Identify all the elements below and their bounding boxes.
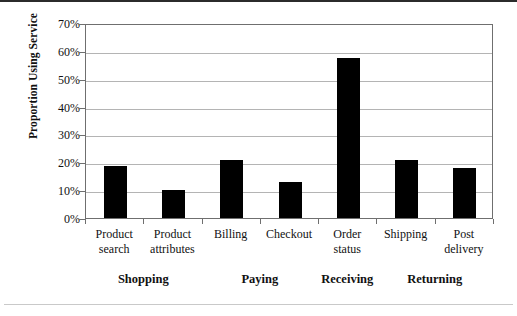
bar [220, 160, 243, 219]
y-axis-tick-label: 30% [36, 129, 80, 141]
y-axis-ticks: 70%60%50%40%30%20%10%0% [30, 24, 80, 219]
x-axis-category-label-line: delivery [435, 242, 493, 257]
x-axis-tick-mark [493, 219, 494, 224]
x-axis-category-label: Checkout [260, 227, 318, 242]
x-axis-tick-mark [435, 219, 436, 224]
gridline [86, 53, 492, 54]
gridline [86, 109, 492, 110]
y-axis-tick-label: 40% [36, 102, 80, 114]
x-axis-category-label: Productsearch [85, 227, 143, 256]
x-axis-category-label-line: Checkout [260, 227, 318, 242]
x-axis-category-label: Postdelivery [435, 227, 493, 256]
x-axis-category-label-line: Product [143, 227, 201, 242]
x-axis-category-labels: ProductsearchProductattributesBillingChe… [85, 227, 493, 267]
bar [395, 160, 418, 219]
x-axis-group-labels: ShoppingPayingReceivingReturning [85, 272, 493, 292]
bar [279, 182, 302, 218]
x-axis-category-label: Productattributes [143, 227, 201, 256]
gridline [86, 81, 492, 82]
x-axis-tick-mark [143, 219, 144, 224]
y-axis-tick-label: 20% [36, 157, 80, 169]
y-axis-tick-label: 50% [36, 74, 80, 86]
bar [453, 168, 476, 218]
x-axis-tick-mark [260, 219, 261, 224]
x-axis-ticks [85, 219, 493, 225]
x-axis-category-label-line: Billing [202, 227, 260, 242]
y-axis-tick-label: 60% [36, 46, 80, 58]
x-axis-category-label-line: search [85, 242, 143, 257]
page-rule [4, 304, 513, 305]
gridline [86, 164, 492, 165]
x-axis-category-label: Shipping [376, 227, 434, 242]
x-axis-tick-mark [318, 219, 319, 224]
bar-chart-figure: Proportion Using Service 70%60%50%40%30%… [0, 0, 517, 316]
bar [162, 190, 185, 218]
gridline [86, 136, 492, 137]
x-axis-category-label: Billing [202, 227, 260, 242]
x-axis-category-label-line: status [318, 242, 376, 257]
y-axis-tick-label: 10% [36, 185, 80, 197]
x-axis-group-label: Shopping [85, 272, 202, 287]
y-axis-tick-label: 70% [36, 18, 80, 30]
plot-area [85, 24, 493, 219]
y-axis-tick-label: 0% [36, 213, 80, 225]
x-axis-group-label: Paying [202, 272, 319, 287]
x-axis-tick-mark [202, 219, 203, 224]
x-axis-category-label-line: attributes [143, 242, 201, 257]
x-axis-category-label-line: Product [85, 227, 143, 242]
x-axis-group-label: Receiving [318, 272, 376, 287]
x-axis-category-label-line: Order [318, 227, 376, 242]
x-axis-category-label-line: Post [435, 227, 493, 242]
x-axis-tick-mark [85, 219, 86, 224]
x-axis-category-label-line: Shipping [376, 227, 434, 242]
x-axis-tick-mark [376, 219, 377, 224]
bar [104, 166, 127, 218]
bar [337, 58, 360, 218]
x-axis-group-label: Returning [376, 272, 493, 287]
x-axis-category-label: Orderstatus [318, 227, 376, 256]
